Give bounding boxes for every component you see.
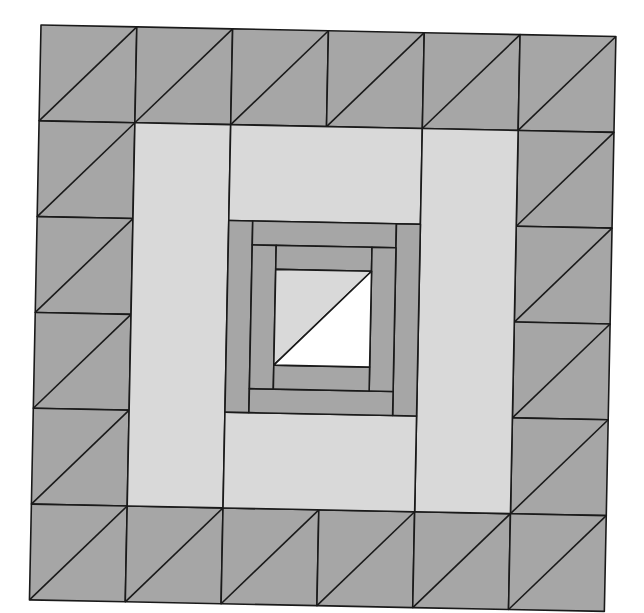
center-frame-bottom-strip — [249, 389, 393, 416]
center-frame-left-strip — [225, 220, 253, 412]
center-frame-top-strip — [252, 221, 396, 248]
center-frame-right-strip — [369, 247, 396, 391]
light-left-column — [127, 123, 231, 508]
quilt-svg — [0, 0, 644, 613]
center-frame-right-strip — [393, 224, 421, 416]
light-right-column — [415, 129, 519, 514]
center-frame-top-strip — [276, 245, 372, 271]
quilt-block — [29, 25, 615, 611]
light-top-bar — [229, 125, 423, 225]
light-bottom-bar — [223, 412, 417, 512]
center-frame-bottom-strip — [273, 365, 369, 391]
center-frame-left-strip — [249, 245, 276, 389]
quilt-diagram — [0, 0, 644, 613]
